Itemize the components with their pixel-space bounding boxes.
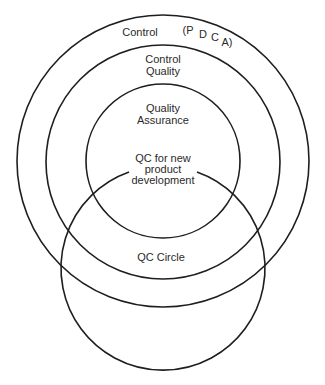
control-quality-label-line1: Control: [145, 53, 180, 65]
pdca-p: (P: [183, 24, 194, 36]
control-quality-label-line2: Quality: [146, 65, 181, 77]
pdca-d: D: [199, 28, 207, 40]
center-label-line3: development: [132, 174, 195, 186]
qc-circle: [61, 172, 265, 370]
pdca-a: A): [222, 36, 233, 48]
pdca-c: C: [211, 31, 219, 43]
quality-assurance-label-line2: Assurance: [137, 114, 189, 126]
control-label: Control: [122, 26, 157, 38]
qc-circle-label: QC Circle: [137, 251, 185, 263]
venn-diagram: Control (P D C A) Control Quality Qualit…: [0, 0, 325, 385]
quality-assurance-label-line1: Quality: [146, 102, 181, 114]
